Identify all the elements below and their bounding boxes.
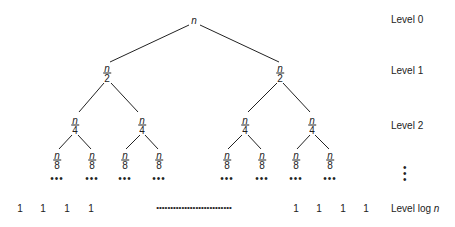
ellipsis: ••• bbox=[255, 173, 269, 184]
ellipsis: ••• bbox=[289, 173, 303, 184]
level3-node: n8 bbox=[326, 151, 334, 170]
leaf-row-ellipsis: ••••••••••••••••••••••••••• bbox=[156, 203, 232, 212]
tree-edges bbox=[0, 0, 455, 227]
vertical-ellipsis: • • • bbox=[403, 165, 407, 183]
level1-node: n2 bbox=[103, 64, 111, 83]
level3-node: n8 bbox=[88, 151, 96, 170]
leaf-node: 1 bbox=[293, 203, 299, 214]
level-label-0: Level 0 bbox=[391, 14, 423, 25]
level3-node: n8 bbox=[121, 151, 129, 170]
root-node: n bbox=[191, 16, 197, 25]
recursion-tree-diagram: n n2 n2 n4 n4 n4 n4 n8 n8 n8 n8 n8 n8 n8… bbox=[0, 0, 455, 227]
ellipsis: ••• bbox=[118, 173, 132, 184]
level-label-log-n: Level log n bbox=[391, 203, 439, 214]
level-label-2: Level 2 bbox=[391, 120, 423, 131]
level3-node: n8 bbox=[53, 151, 61, 170]
level3-node: n8 bbox=[258, 151, 266, 170]
level3-node: n8 bbox=[223, 151, 231, 170]
level2-node: n4 bbox=[308, 116, 316, 135]
ellipsis: ••• bbox=[323, 173, 337, 184]
level2-node: n4 bbox=[138, 116, 146, 135]
level2-node: n4 bbox=[71, 116, 79, 135]
leaf-node: 1 bbox=[340, 203, 346, 214]
leaf-node: 1 bbox=[88, 203, 94, 214]
ellipsis: ••• bbox=[85, 173, 99, 184]
leaf-node: 1 bbox=[316, 203, 322, 214]
level1-node: n2 bbox=[276, 64, 284, 83]
ellipsis: ••• bbox=[50, 173, 64, 184]
leaf-node: 1 bbox=[17, 203, 23, 214]
leaf-node: 1 bbox=[363, 203, 369, 214]
ellipsis: ••• bbox=[152, 173, 166, 184]
level3-node: n8 bbox=[292, 151, 300, 170]
level2-node: n4 bbox=[241, 116, 249, 135]
leaf-node: 1 bbox=[40, 203, 46, 214]
level-label-1: Level 1 bbox=[391, 65, 423, 76]
ellipsis: ••• bbox=[220, 173, 234, 184]
level3-node: n8 bbox=[155, 151, 163, 170]
leaf-node: 1 bbox=[64, 203, 70, 214]
